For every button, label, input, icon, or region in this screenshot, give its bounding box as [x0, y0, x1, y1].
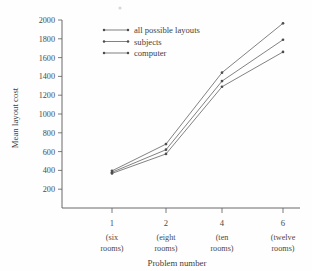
y-tick-label: 600	[43, 148, 55, 157]
x-tick-label: 4	[220, 218, 225, 228]
y-tick-label: 1800	[39, 35, 55, 44]
data-point	[282, 22, 285, 25]
legend-label: subjects	[134, 37, 162, 47]
x-tick-label: 1	[110, 218, 114, 228]
line-chart: 200400600800100012001400160018002000 1(s…	[0, 0, 312, 271]
x-tick-sublabel: rooms)	[100, 244, 123, 253]
data-point	[221, 80, 224, 83]
y-tick-label: 1000	[39, 110, 55, 119]
legend-label: computer	[134, 48, 167, 58]
x-tick-label: 2	[164, 218, 168, 228]
legend-label: all possible layouts	[134, 25, 201, 35]
y-tick-label: 200	[43, 185, 55, 194]
y-tick-label: 2000	[39, 16, 55, 25]
x-tick-label: 6	[281, 218, 286, 228]
legend-sample-marker	[103, 29, 106, 32]
data-point	[221, 85, 224, 88]
legend-sample-marker	[127, 52, 130, 55]
x-tick-sublabel: rooms)	[154, 244, 177, 253]
x-tick-sublabel: rooms)	[271, 244, 294, 253]
x-tick-sublabel: (ten	[216, 233, 229, 242]
legend-sample-marker	[127, 29, 130, 32]
x-tick-sublabel: (eight	[156, 233, 176, 242]
y-axis-title: Mean layout cost	[10, 87, 20, 148]
data-point	[282, 51, 285, 54]
legend-sample-marker	[103, 40, 106, 43]
data-point	[165, 143, 168, 146]
x-axis-title: Problem number	[148, 258, 207, 268]
x-tick-sublabel: (twelve	[271, 233, 296, 242]
y-tick-label: 1200	[39, 91, 55, 100]
scan-speck	[118, 6, 121, 9]
x-tick-sublabel: (six	[106, 233, 118, 242]
y-tick-label: 1400	[39, 72, 55, 81]
data-point	[165, 148, 168, 151]
y-tick-label: 400	[43, 166, 55, 175]
data-point	[221, 71, 224, 74]
y-tick-label: 800	[43, 129, 55, 138]
legend-sample-marker	[103, 52, 106, 55]
x-tick-sublabel: rooms)	[210, 244, 233, 253]
data-point	[111, 172, 114, 175]
legend-sample-marker	[127, 40, 130, 43]
y-tick-label: 1600	[39, 54, 55, 63]
chart-figure: 200400600800100012001400160018002000 1(s…	[0, 0, 312, 271]
data-point	[282, 38, 285, 41]
data-point	[165, 153, 168, 156]
